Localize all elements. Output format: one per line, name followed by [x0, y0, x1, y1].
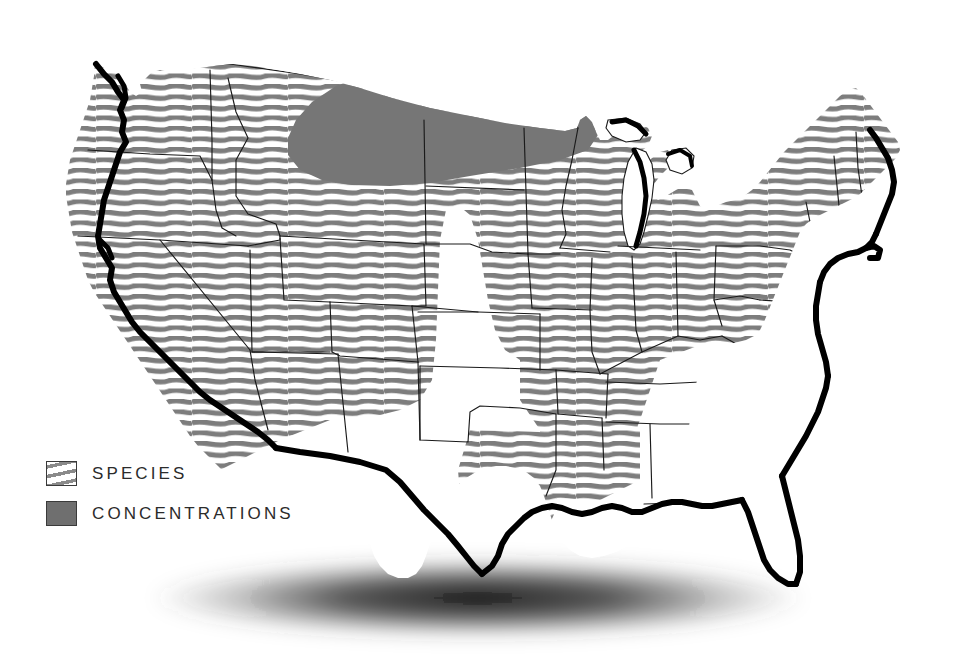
map-legend: SPECIES CONCENTRATIONS	[46, 458, 294, 538]
us-map-svg	[0, 0, 953, 658]
concentrations-legend-label: CONCENTRATIONS	[92, 505, 294, 522]
species-legend-label: SPECIES	[92, 465, 187, 482]
legend-item-species: SPECIES	[46, 458, 294, 488]
species-swatch-icon	[46, 461, 77, 486]
legend-item-concentrations: CONCENTRATIONS	[46, 498, 294, 528]
concentrations-swatch-icon	[46, 501, 77, 526]
map-figure: SPECIES CONCENTRATIONS	[0, 0, 953, 658]
